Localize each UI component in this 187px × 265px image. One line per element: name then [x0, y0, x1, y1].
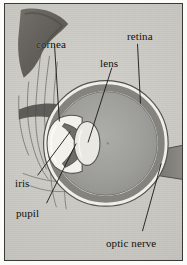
- label-optic-nerve: optic nerve: [106, 238, 156, 249]
- label-pupil: pupil: [16, 208, 39, 219]
- label-lens: lens: [100, 58, 118, 69]
- fovea-mark: [107, 142, 109, 144]
- label-retina: retina: [127, 31, 153, 42]
- lens: [74, 122, 100, 166]
- label-iris: iris: [15, 178, 29, 189]
- eye-cross-section-svg: [5, 4, 182, 260]
- label-cornea: cornea: [36, 39, 66, 50]
- figure-plate: cornea retina lens iris pupil optic nerv…: [0, 0, 187, 265]
- figure-frame: cornea retina lens iris pupil optic nerv…: [4, 3, 183, 261]
- eye-diagram-artwork: [5, 4, 182, 260]
